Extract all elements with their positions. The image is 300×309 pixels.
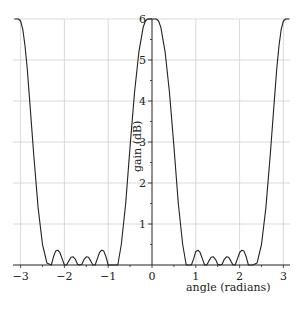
x-tick-label: −1 (100, 270, 116, 283)
x-tick-label: −2 (56, 270, 72, 283)
x-tick-label: −3 (12, 270, 28, 283)
y-tick-label: 1 (139, 218, 146, 231)
y-axis-label: gain (dB) (131, 121, 144, 172)
y-tick-label: 2 (139, 177, 146, 190)
y-tick-label: 4 (139, 95, 146, 108)
y-tick-label: 5 (139, 54, 146, 67)
gain-vs-angle-chart: −3−2−10123123456 angle (radians) gain (d… (0, 0, 300, 309)
x-tick-label: 0 (149, 270, 156, 283)
y-tick-label: 6 (139, 13, 146, 26)
x-axis-label: angle (radians) (186, 281, 270, 294)
x-tick-label: 3 (280, 270, 287, 283)
ticks: −3−2−10123123456 (12, 13, 286, 283)
